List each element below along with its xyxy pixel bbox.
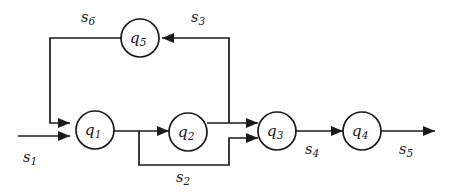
node-q1[interactable]: q1: [76, 111, 114, 149]
edge-label-s2: s2: [176, 169, 190, 187]
edge-s3-arrowhead: [162, 33, 174, 43]
edge-label-s5: s5: [399, 141, 413, 159]
edge-q2-q3-arrowhead: [246, 118, 258, 128]
edge-label-s1: s1: [23, 149, 37, 167]
edge-s6-line: [50, 38, 121, 123]
edge-s3-line: [162, 38, 229, 123]
node-q5[interactable]: q5: [121, 19, 159, 57]
edge-s2-arrowhead: [246, 133, 258, 143]
edge-s6-arrowhead: [58, 118, 70, 128]
edge-label-s4: s4: [305, 141, 319, 159]
edge-q1-q2-arrowhead: [157, 126, 169, 136]
node-q2[interactable]: q2: [169, 113, 207, 151]
edge-label-s3: s3: [191, 9, 205, 27]
edge-label-s6: s6: [81, 9, 95, 27]
edge-s4-arrowhead: [331, 126, 343, 136]
edge-s5-arrowhead: [423, 126, 435, 136]
state-machine-diagram: q5 q1 q2 q3 q4 s1 s2 s3 s4 s5 s6: [0, 0, 452, 192]
state-machine-canvas: q5 q1 q2 q3 q4 s1 s2 s3 s4 s5 s6: [0, 0, 452, 192]
node-q3[interactable]: q3: [258, 112, 296, 150]
node-q4[interactable]: q4: [343, 112, 381, 150]
edge-s1-arrowhead: [58, 131, 70, 141]
